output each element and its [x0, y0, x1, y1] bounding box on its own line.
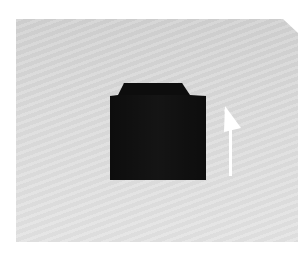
garment-fold-shading [110, 95, 206, 180]
up-arrow-icon [220, 104, 244, 176]
